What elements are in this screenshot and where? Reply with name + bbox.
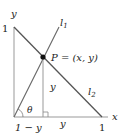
theta-label: θ (27, 105, 33, 115)
vertical-y-label: y (49, 81, 56, 92)
one-minus-y-label: 1 − y (15, 122, 42, 133)
x-axis-label: x (112, 111, 118, 122)
y-axis-label: y (10, 8, 17, 19)
point-p (40, 54, 45, 59)
x-tick-one: 1 (99, 122, 105, 133)
line-l2 (14, 27, 102, 117)
l2-label: l2 (88, 86, 96, 99)
geometry-diagram: y 1 x 1 l1 l2 P = (x, y) y y 1 − y θ (0, 0, 128, 136)
right-angle-marker (43, 112, 48, 117)
horizontal-y-label: y (59, 118, 66, 129)
line-l1 (14, 27, 59, 117)
y-tick-one: 1 (2, 23, 8, 34)
l1-label: l1 (60, 17, 68, 30)
point-p-label: P = (x, y) (50, 52, 98, 63)
angle-arc (18, 109, 23, 117)
